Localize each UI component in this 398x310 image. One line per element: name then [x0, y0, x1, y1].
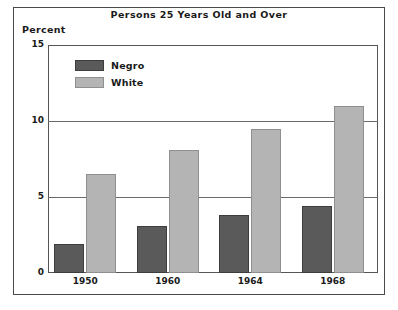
- legend-label-white: White: [111, 77, 143, 88]
- bar-negro-1950: [54, 244, 84, 273]
- x-tick-label-1950: 1950: [55, 277, 115, 286]
- bar-white-1968: [334, 106, 364, 273]
- y-tick-label-5: 5: [18, 192, 44, 201]
- bar-negro-1960: [137, 226, 167, 273]
- legend-label-negro: Negro: [111, 60, 144, 71]
- y-axis-unit-label: Percent: [22, 24, 66, 35]
- bar-negro-1968: [302, 206, 332, 273]
- legend-swatch-white: [75, 77, 104, 88]
- chart-legend: NegroWhite: [75, 58, 144, 92]
- x-tick-label-1968: 1968: [303, 277, 363, 286]
- gridline-10: [48, 121, 378, 122]
- chart-title: Persons 25 Years Old and Over: [13, 9, 385, 20]
- x-tick-label-1960: 1960: [138, 277, 198, 286]
- x-tick-label-1964: 1964: [220, 277, 280, 286]
- bar-white-1960: [169, 150, 199, 273]
- bar-negro-1964: [219, 215, 249, 273]
- legend-item-white: White: [75, 75, 144, 90]
- y-tick-label-0: 0: [18, 268, 44, 277]
- bar-white-1964: [251, 129, 281, 273]
- chart-figure: Persons 25 Years Old and Over Percent 05…: [0, 0, 398, 310]
- legend-item-negro: Negro: [75, 58, 144, 73]
- bar-white-1950: [86, 174, 116, 273]
- y-tick-label-15: 15: [18, 40, 44, 49]
- y-tick-label-10: 10: [18, 116, 44, 125]
- legend-swatch-negro: [75, 60, 104, 71]
